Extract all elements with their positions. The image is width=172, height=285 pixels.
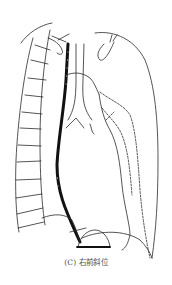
- diaphragm: [42, 215, 152, 258]
- figure-caption: (C) 右前斜位: [0, 256, 172, 267]
- heart-border: [99, 94, 130, 250]
- esophagus: [57, 44, 80, 242]
- rao-chest-diagram: [0, 0, 172, 285]
- trachea: [66, 44, 94, 134]
- heart-dashed-contour: [100, 92, 150, 258]
